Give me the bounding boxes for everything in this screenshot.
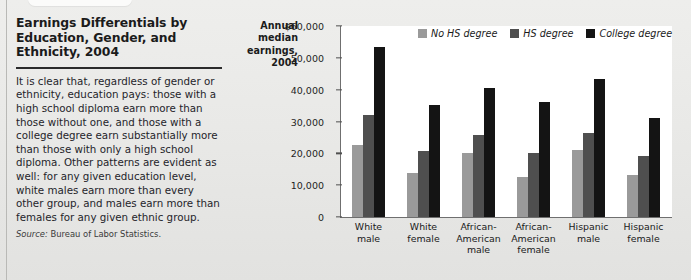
bar-group [561,26,616,217]
legend-item: No HS degree [418,28,497,39]
x-category-label: Hispanicmale [561,221,616,256]
panel-source: Source: Bureau of Labor Statistics. [16,229,222,239]
bar [528,153,539,217]
legend-item: College degree [586,28,672,39]
bar-group [451,26,506,217]
bar-group [616,26,671,217]
text-panel: Earnings Differentials by Education, Gen… [16,16,222,239]
legend-label: College degree [599,28,672,39]
chart: Annual median earnings, 2004 $60,00050,0… [232,0,691,280]
bar [594,79,605,217]
bar [429,105,440,217]
y-tick-label: $60,000 [285,21,324,32]
bar [473,135,484,217]
bar [517,177,528,217]
bar [462,153,473,217]
bar [418,151,429,217]
x-category-label: Whitemale [341,221,396,256]
bar-group [506,26,561,217]
bar [627,175,638,217]
legend-item: HS degree [510,28,573,39]
left-margin-rule [6,0,7,280]
bar [407,173,418,217]
title-divider [16,67,222,69]
y-tick-label: 40,000 [291,84,324,95]
figure-page: Earnings Differentials by Education, Gen… [0,0,691,280]
source-text: Bureau of Labor Statistics. [50,229,161,239]
bar [363,115,374,217]
bar [374,47,385,217]
x-category-label: Whitefemale [396,221,451,256]
y-tick-label: 30,000 [291,116,324,127]
bar [539,102,550,217]
y-axis: $60,00050,00040,00030,00020,00010,0000 [232,26,336,218]
bar [484,88,495,217]
source-label: Source: [16,229,48,239]
chart-legend: No HS degreeHS degreeCollege degree [418,28,678,39]
page-tab [28,0,132,6]
y-tick-label: 10,000 [291,180,324,191]
x-category-label: Hispanicfemale [616,221,671,256]
legend-swatch [510,29,519,38]
legend-label: No HS degree [431,28,497,39]
x-category-label: African-Americanfemale [506,221,561,256]
legend-swatch [586,29,595,38]
legend-swatch [418,29,427,38]
bar [572,150,583,217]
y-tick-label: 50,000 [291,52,324,63]
bar-series-container [341,26,671,217]
panel-body-text: It is clear that, regardless of gender o… [16,75,222,225]
bar [352,145,363,217]
bar-group [341,26,396,217]
x-axis-categories: WhitemaleWhitefemaleAfrican-Americanmale… [341,221,671,256]
y-tick-label: 20,000 [291,148,324,159]
legend-label: HS degree [523,28,573,39]
bar [649,118,660,217]
panel-title: Earnings Differentials by Education, Gen… [16,16,222,60]
bar-group [396,26,451,217]
bar [638,156,649,217]
y-tick-label: 0 [318,212,324,223]
x-category-label: African-Americanmale [451,221,506,256]
bar [583,133,594,217]
